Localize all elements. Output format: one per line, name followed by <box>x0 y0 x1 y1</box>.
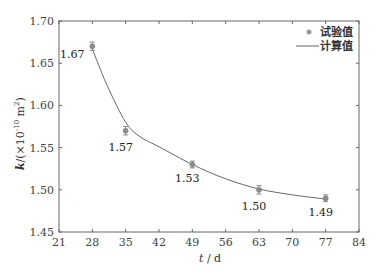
x-tick-label: 70 <box>285 236 299 249</box>
y-label-exp: -10 <box>13 120 21 131</box>
data-point-label: 1.57 <box>108 141 133 154</box>
legend-label-experimental: 试验值 <box>320 25 353 39</box>
x-tick-label: 35 <box>119 236 133 249</box>
x-label-rest: / d <box>203 252 221 265</box>
x-tick-label: 49 <box>185 236 199 249</box>
y-tick-label: 1.55 <box>30 142 55 155</box>
y-tick-label: 1.50 <box>30 184 55 197</box>
legend-label-calculated: 计算值 <box>320 39 353 53</box>
x-tick-label: 21 <box>52 236 66 249</box>
y-label-close: ) <box>14 97 27 101</box>
data-point <box>190 162 196 168</box>
data-labels: 1.671.571.531.501.49 <box>60 48 333 219</box>
chart: 21283542495663707784 1.451.501.551.601.6… <box>0 0 383 277</box>
data-point <box>256 187 262 193</box>
svg-text:k/(×10-10 m2): k/(×10-10 m2) <box>13 97 27 170</box>
y-axis-label: k/(×10-10 m2) <box>13 97 27 170</box>
y-tick-label: 1.70 <box>30 15 55 28</box>
y-tick-label: 1.45 <box>30 226 55 239</box>
data-point-label: 1.67 <box>60 48 85 61</box>
plot-frame <box>59 21 359 232</box>
data-point <box>323 195 329 201</box>
y-tick-label: 1.60 <box>30 99 55 112</box>
y-label-unit: m <box>14 105 27 119</box>
x-tick-label: 42 <box>152 236 166 249</box>
data-point <box>123 128 129 134</box>
data-point-label: 1.49 <box>308 206 333 219</box>
x-tick-label: 56 <box>219 236 233 249</box>
data-point-label: 1.50 <box>242 200 267 213</box>
y-tick-label: 1.65 <box>30 57 55 70</box>
x-tick-label: 28 <box>85 236 99 249</box>
x-tick-label: 84 <box>352 236 366 249</box>
y-label-rest: /(×10 <box>14 131 27 162</box>
x-tick-label: 63 <box>252 236 266 249</box>
x-tick-label: 77 <box>319 236 333 249</box>
legend-dot-icon <box>307 30 312 35</box>
calculated-curve <box>92 49 325 199</box>
data-point <box>90 44 96 50</box>
data-point-label: 1.53 <box>175 172 200 185</box>
legend: 试验值 计算值 <box>296 25 353 53</box>
x-axis-label: t / d <box>199 252 221 265</box>
